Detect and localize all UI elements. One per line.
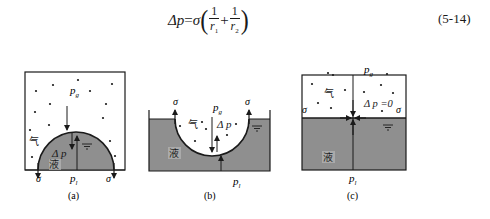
panel-b: pg 气 Δ p 液 σ σ pl (b)	[149, 96, 270, 202]
panel-b-liquid	[149, 119, 270, 171]
panel-a: pg Δ p 液 气 σ σ pl (a)	[25, 72, 125, 202]
panel-a-caption: (a)	[68, 190, 79, 202]
panel-a-delta-p-label: Δ p	[51, 147, 67, 159]
panel-b-delta-p-label: Δ p	[216, 118, 232, 130]
panel-c-liquid-label: 液	[323, 151, 333, 163]
panel-b-caption: (b)	[204, 190, 216, 202]
panel-b-gas-label: 气	[188, 118, 198, 130]
panel-b-liquid-pressure-label: pl	[232, 175, 241, 190]
meniscus-diagrams: pg Δ p 液 气 σ σ pl (a) pg 气 Δ	[0, 0, 490, 219]
panel-a-liquid-pressure-label: pl	[69, 172, 78, 187]
panel-c: pg 气 Δ p =0 σ σ 液 pl (c)	[302, 63, 406, 202]
panel-c-gas-label: 气	[324, 87, 334, 99]
panel-c-delta-p-label: Δ p =0	[363, 98, 394, 109]
panel-a-sigma-left-label: σ	[36, 173, 42, 184]
panel-a-sigma-right-label: σ	[106, 173, 112, 184]
panel-c-liquid-pressure-label: pl	[348, 172, 357, 187]
panel-c-caption: (c)	[347, 190, 358, 202]
panel-a-gas-label: 气	[29, 135, 39, 147]
panel-b-sigma-right-label: σ	[245, 96, 251, 107]
panel-c-liquid	[302, 118, 406, 170]
panel-b-gas-pressure-label: pg	[212, 101, 223, 116]
panel-b-liquid-label: 液	[169, 147, 179, 159]
panel-b-sigma-left-label: σ	[173, 96, 179, 107]
panel-a-liquid-label: 液	[49, 158, 59, 170]
